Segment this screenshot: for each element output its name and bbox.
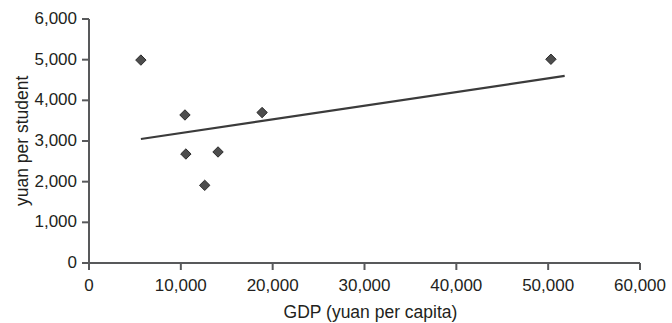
data-point-marker: [136, 55, 146, 65]
y-axis-tick-label: 0: [68, 253, 77, 273]
x-axis-tick-label: 20,000: [247, 276, 299, 296]
data-point-marker: [546, 54, 556, 64]
x-axis-tick-label: 40,000: [430, 276, 482, 296]
data-point-marker: [180, 110, 190, 120]
x-axis-tick-label: 60,000: [614, 276, 666, 296]
y-axis-tick-label: 4,000: [34, 90, 77, 110]
y-axis-tick-label: 3,000: [34, 131, 77, 151]
data-point-marker: [213, 147, 223, 157]
x-axis-tick-label: 10,000: [155, 276, 207, 296]
scatter-chart: 01,0002,0003,0004,0005,0006,000 010,0002…: [0, 0, 672, 323]
trendline-segment: [141, 76, 565, 139]
y-axis-tick-label: 6,000: [34, 9, 77, 29]
data-point-marker: [200, 180, 210, 190]
x-axis-tick-label: 0: [84, 276, 93, 296]
x-axis-tick-label: 50,000: [522, 276, 574, 296]
x-axis-tick-label: 30,000: [339, 276, 391, 296]
x-axis-title: GDP (yuan per capita): [0, 302, 672, 323]
y-axis-ticks: [82, 19, 89, 263]
y-axis-tick-label: 5,000: [34, 50, 77, 70]
plot-area: [0, 0, 672, 323]
axes: [89, 19, 640, 263]
data-point-marker: [181, 149, 191, 159]
y-axis-tick-label: 2,000: [34, 172, 77, 192]
x-axis-ticks: [89, 263, 640, 270]
y-axis-title: yuan per student: [12, 76, 33, 206]
trendline: [141, 76, 565, 139]
data-points: [136, 54, 556, 190]
y-axis-tick-label: 1,000: [34, 212, 77, 232]
data-point-marker: [257, 107, 267, 117]
